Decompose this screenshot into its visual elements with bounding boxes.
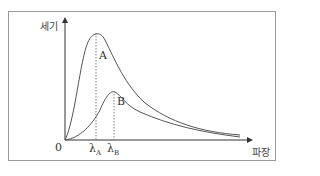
curve-b-label: B [117, 96, 125, 107]
y-axis-label: 세기 [40, 22, 58, 32]
lambda-a-label: λA [89, 143, 101, 157]
origin-label: 0 [55, 142, 62, 153]
lambda-b-label: λB [107, 143, 119, 157]
x-axis-label: 파장 [252, 148, 270, 158]
curve-a-label: A [99, 50, 107, 61]
curve-b [65, 92, 240, 140]
